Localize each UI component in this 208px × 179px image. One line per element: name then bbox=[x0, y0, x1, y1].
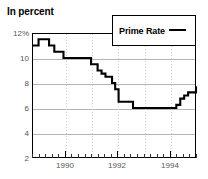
x-tick-minor bbox=[52, 154, 53, 158]
y-tick-label-8: 8 bbox=[25, 79, 29, 88]
x-tick-major bbox=[170, 151, 171, 158]
y-axis: 12% 10 8 6 4 2 bbox=[0, 33, 29, 158]
x-tick-minor bbox=[91, 154, 92, 158]
x-tick-minor bbox=[58, 154, 59, 158]
y-tick-label-6: 6 bbox=[25, 104, 29, 113]
x-tick-label-1994: 1994 bbox=[161, 161, 179, 170]
x-axis: 1990 1992 1994 bbox=[32, 161, 196, 173]
y-tick-label-4: 4 bbox=[25, 129, 29, 138]
x-axis-ticks bbox=[32, 148, 196, 158]
x-tick-minor bbox=[163, 154, 164, 158]
x-tick-minor bbox=[183, 154, 184, 158]
x-tick-minor bbox=[78, 154, 79, 158]
x-tick-minor bbox=[98, 154, 99, 158]
x-tick-minor bbox=[71, 154, 72, 158]
x-tick-label-1990: 1990 bbox=[56, 161, 74, 170]
y-tick-label-2: 2 bbox=[25, 154, 29, 163]
x-tick-minor bbox=[32, 154, 33, 158]
x-tick-minor bbox=[157, 154, 158, 158]
prime-rate-chart: In percent 12% 10 8 6 4 2 1990 1992 1994… bbox=[0, 0, 208, 179]
prime-rate-line bbox=[32, 39, 196, 108]
x-tick-minor bbox=[39, 154, 40, 158]
legend-label-prime-rate: Prime Rate bbox=[119, 26, 165, 36]
x-tick-minor bbox=[137, 154, 138, 158]
x-tick-major bbox=[117, 151, 118, 158]
x-tick-minor bbox=[45, 154, 46, 158]
series-prime-rate bbox=[32, 33, 196, 158]
y-tick-label-12: 12% bbox=[13, 29, 29, 38]
x-tick-minor bbox=[85, 154, 86, 158]
x-tick-minor bbox=[124, 154, 125, 158]
x-tick-minor bbox=[130, 154, 131, 158]
y-tick-label-10: 10 bbox=[20, 54, 29, 63]
legend-line-swatch bbox=[169, 29, 186, 31]
x-tick-label-1992: 1992 bbox=[108, 161, 126, 170]
x-tick-minor bbox=[176, 154, 177, 158]
x-tick-minor bbox=[144, 154, 145, 158]
x-tick-minor bbox=[189, 154, 190, 158]
x-tick-minor bbox=[196, 154, 197, 158]
x-tick-minor bbox=[104, 154, 105, 158]
x-tick-minor bbox=[111, 154, 112, 158]
chart-title: In percent bbox=[7, 6, 54, 17]
x-tick-major bbox=[65, 151, 66, 158]
legend: Prime Rate bbox=[112, 15, 196, 46]
x-tick-minor bbox=[150, 154, 151, 158]
